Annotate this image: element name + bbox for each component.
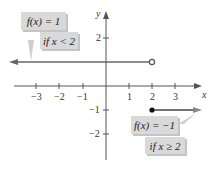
callout-bottom-function: f(x) = −1 [131,116,178,134]
x-tick-label: 3 [173,92,178,102]
open-endpoint [149,59,154,64]
y-tick-label: −2 [89,129,100,139]
bottom-callout-pointer [178,113,196,124]
top-callout-pointer [28,40,34,61]
callout-top-function: f(x) = 1 [21,12,66,30]
y-axis-label: y [96,9,100,19]
callout-bottom-function-text: f(x) = −1 [134,119,175,131]
x-tick-label: −1 [77,92,88,102]
callout-top-condition-text: if x < 2 [43,35,75,47]
x-tick-label: −3 [31,92,42,102]
x-axis-arrow-icon [194,83,202,89]
left-arrow-icon [9,59,18,65]
x-axis-label: x [202,90,206,100]
x-tick-label: 1 [127,92,132,102]
x-tick-label: 2 [150,92,155,102]
callout-bottom-condition-text: if x ≥ 2 [150,140,181,152]
callout-top-function-text: f(x) = 1 [27,15,61,27]
right-arrow-icon [193,107,202,113]
x-tick-label: −2 [54,92,65,102]
y-axis-arrow-icon [103,11,109,19]
closed-endpoint [149,107,154,112]
callout-top-condition: if x < 2 [40,32,78,49]
callout-bottom-condition: if x ≥ 2 [145,137,185,154]
y-tick-label: 2 [96,33,101,43]
y-tick-label: −1 [89,105,100,115]
